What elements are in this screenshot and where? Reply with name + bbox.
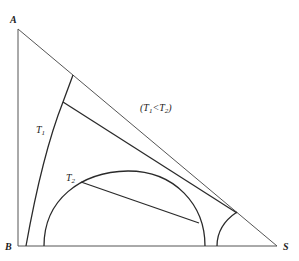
edge-as: [18, 29, 277, 246]
t1-binodal-curve-right: [217, 212, 237, 246]
t2-label: T2: [66, 172, 76, 185]
vertex-label-a: A: [9, 14, 17, 25]
t1-tie-line: [63, 102, 237, 213]
t1-label: T1: [36, 124, 45, 137]
temperature-condition-label: (T1<T2): [140, 102, 172, 115]
t1-binodal-curve-left: [26, 75, 73, 246]
phase-diagram: A B S T1 T2 (T1<T2): [0, 0, 299, 261]
t2-tie-line: [81, 182, 199, 223]
vertex-label-s: S: [283, 241, 289, 252]
vertex-label-b: B: [4, 241, 12, 252]
